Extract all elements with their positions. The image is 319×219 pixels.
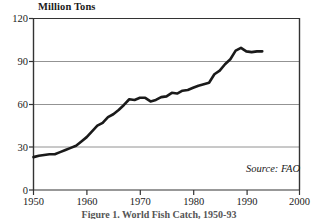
plot-area [0,0,318,219]
gridlines [33,62,300,148]
chart-figure: Million Tons [0,0,318,219]
y-tick-label-120: 120 [0,13,28,24]
y-tick-label-0: 0 [0,185,28,196]
x-tick-label-1990: 1990 [227,196,267,208]
x-tick-label-2000: 2000 [280,196,319,208]
source-annotation: Source: FAO [246,163,300,174]
y-tick-label-30: 30 [0,142,28,153]
x-tick-label-1970: 1970 [120,196,160,208]
figure-caption: Figure 1. World Fish Catch, 1950-93 [0,209,318,219]
y-tick-marks [29,19,33,191]
y-axis-title: Million Tons [38,1,96,13]
x-tick-label-1950: 1950 [14,196,54,208]
y-tick-label-60: 60 [0,99,28,110]
x-tick-label-1980: 1980 [174,196,214,208]
x-tick-label-1960: 1960 [67,196,107,208]
data-series-world-fish-catch [34,48,263,157]
y-tick-label-90: 90 [0,56,28,67]
x-tick-marks [34,190,300,195]
